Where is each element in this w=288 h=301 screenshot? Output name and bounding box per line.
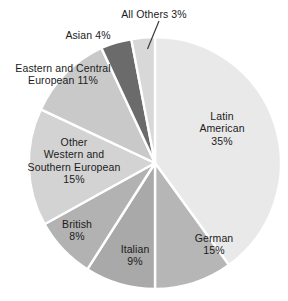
pie-chart-canvas xyxy=(0,0,288,301)
pie-chart: Latin American 35% German 15% Italian 9%… xyxy=(0,0,288,301)
pie-slices xyxy=(29,37,281,289)
